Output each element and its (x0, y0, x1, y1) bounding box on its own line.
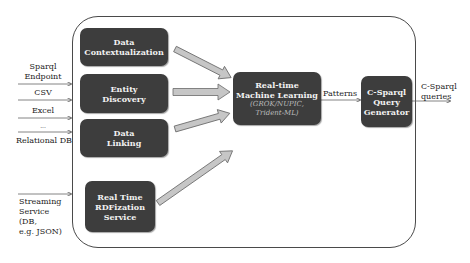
input-label-line: e.g. JSON) (19, 227, 69, 237)
box-sublabel-line: Trident-ML) (255, 109, 298, 118)
box-label-line: Discovery (102, 94, 145, 104)
input-label-line: Service (19, 207, 69, 217)
arrow-contextualization-to-ml (172, 43, 234, 84)
input-label-line: ... (18, 121, 68, 131)
data-contextualization-box: Data Contextualization (80, 28, 168, 66)
box-label-line: Real Time (97, 192, 142, 202)
output-label: C-Sparql queries (421, 82, 469, 102)
box-label-line: Machine Learning (236, 90, 318, 100)
input-label-line: Streaming (19, 197, 69, 207)
arrow-rdfization-to-ml (154, 145, 237, 209)
connector-layer (0, 0, 470, 263)
box-label-line: Data (114, 128, 135, 138)
output-label-line: C-Sparql (421, 82, 469, 92)
box-label-line: RDFization (95, 202, 145, 212)
box-label-line: Linking (107, 138, 141, 148)
box-sublabel-line: (GROK/NUPIC, (250, 100, 304, 109)
input-label-line: CSV (18, 88, 68, 98)
architecture-diagram: Sparql Endpoint CSV Excel ... Relational… (0, 0, 470, 263)
patterns-label: Patterns (323, 89, 357, 99)
csparql-query-generator-box: C-Sparql Query Generator (361, 76, 412, 127)
entity-discovery-box: Entity Discovery (80, 74, 168, 113)
arrow-entity-to-ml (173, 84, 230, 100)
input-sparql-endpoint: Sparql Endpoint (18, 62, 68, 82)
box-label-line: Real-time (255, 80, 299, 90)
box-label-line: Generator (364, 107, 409, 117)
box-label-line: Service (104, 212, 137, 222)
input-streaming-service: Streaming Service (DB, e.g. JSON) (19, 197, 69, 237)
rdfization-service-box: Real Time RDFization Service (85, 181, 155, 232)
input-ellipsis: ... (18, 121, 68, 131)
box-label-line: Entity (111, 84, 138, 94)
data-linking-box: Data Linking (80, 119, 168, 157)
input-label-line: (DB, (19, 217, 69, 227)
input-label-line: Endpoint (18, 72, 68, 82)
box-label-line: Contextualization (84, 47, 163, 57)
input-label-line: Excel (18, 106, 68, 116)
output-label-line: queries (421, 92, 469, 102)
box-label-line: Query (373, 97, 400, 107)
box-label-line: C-Sparql (367, 87, 406, 97)
input-excel: Excel (18, 106, 68, 116)
input-label-line: Relational DB (16, 136, 76, 146)
machine-learning-box: Real-time Machine Learning (GROK/NUPIC, … (233, 72, 321, 125)
input-csv: CSV (18, 88, 68, 98)
input-label-line: Sparql (18, 62, 68, 72)
box-label-line: Data (114, 37, 135, 47)
arrow-linking-to-ml (173, 107, 232, 136)
input-relational-db: Relational DB (16, 136, 76, 146)
